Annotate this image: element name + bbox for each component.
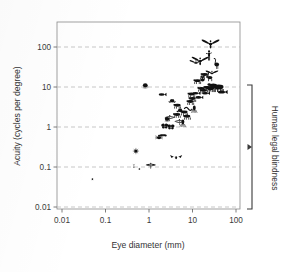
- x-tick-label: 10: [188, 216, 198, 225]
- acuity-vs-eye-diameter-scatter-plot: 0.010.1110100 0.010.1110100 Eye diameter…: [0, 0, 288, 272]
- y-tick-label: 100: [37, 43, 51, 52]
- chart-figure: 0.010.1110100 0.010.1110100 Eye diameter…: [0, 0, 288, 272]
- y-tick-label: 1: [46, 123, 51, 132]
- x-tick-label: 1: [147, 216, 152, 225]
- x-axis-title: Eye diameter (mm): [111, 240, 184, 250]
- y-tick-label: 0.1: [40, 163, 52, 172]
- plot-area-frame: [57, 22, 240, 209]
- data-point-jumping-spider: [133, 148, 139, 154]
- x-tick-label: 0.01: [54, 216, 70, 225]
- y-axis-title: Acuity (cycles per degree): [12, 66, 22, 165]
- x-tick-label: 0.1: [100, 216, 112, 225]
- blindness-label: Human legal blindness: [270, 106, 280, 191]
- y-tick-label: 10: [42, 83, 52, 92]
- y-tick-label: 0.01: [35, 203, 51, 212]
- x-tick-label: 100: [229, 216, 243, 225]
